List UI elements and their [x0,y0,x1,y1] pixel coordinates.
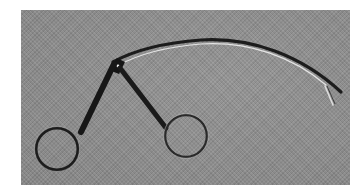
forceps-left-ring [36,128,78,170]
forceps-jaw-tip [325,86,333,105]
forceps-illustration [21,10,350,185]
forceps-shaft [113,40,341,92]
forceps-left-arm [81,64,114,132]
photo-forceps: Curved surgical forceps with ring handle… [21,10,350,185]
forceps-right-arm [120,68,166,128]
forceps-right-ring [165,115,207,157]
